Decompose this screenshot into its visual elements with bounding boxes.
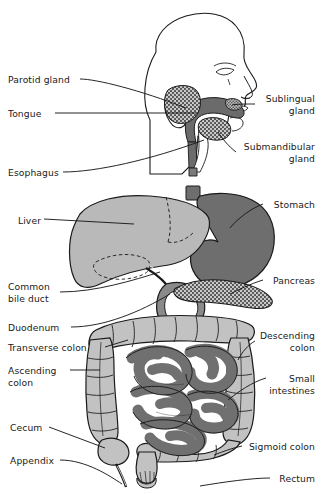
anatomy-illustration — [0, 0, 323, 494]
digestive-system-figure: Parotid gland Tongue Esophagus Liver Com… — [0, 0, 323, 494]
leader-rectum — [200, 478, 270, 486]
head-profile — [145, 13, 257, 176]
cecum — [98, 438, 129, 465]
abdominal-organs — [70, 186, 275, 488]
chin — [230, 117, 243, 131]
liver — [70, 196, 210, 288]
submandibular-gland — [198, 118, 231, 141]
ascending-colon — [86, 338, 118, 445]
rectum — [136, 452, 157, 488]
small-intestines — [132, 349, 234, 450]
parotid-gland — [164, 86, 200, 124]
esophagus-neck — [189, 168, 197, 176]
